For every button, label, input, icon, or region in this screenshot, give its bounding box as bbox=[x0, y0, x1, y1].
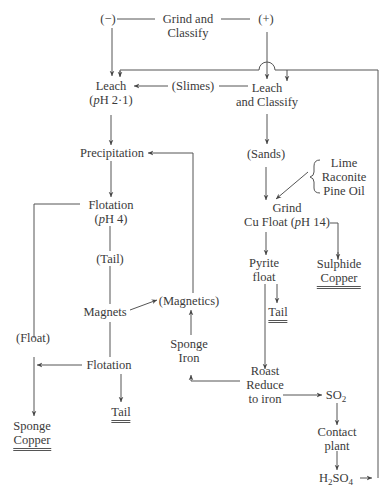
node-leach-and-classify: Leach and Classify bbox=[236, 81, 298, 109]
node-grind-and-classify: Grind and Classify bbox=[163, 12, 213, 40]
node-flotation-ph4: Flotation (pH 4) bbox=[88, 198, 133, 226]
node-undersize: (−) bbox=[100, 12, 115, 26]
label-tail-intermediate: (Tail) bbox=[96, 252, 124, 266]
node-oversize: (+) bbox=[258, 12, 273, 26]
product-tail-bottom: Tail bbox=[111, 405, 130, 423]
node-leach-ph21: Leach (pH 2·1) bbox=[89, 79, 132, 107]
product-sponge-copper: Sponge Copper bbox=[13, 419, 51, 451]
product-tail-pyrite: Tail bbox=[268, 305, 287, 323]
reagents-list: Lime Raconite Pine Oil bbox=[322, 156, 366, 198]
label-float: (Float) bbox=[16, 331, 50, 345]
node-grind-cu-float: Grind Cu Float (pH 14) bbox=[244, 201, 330, 229]
node-so2: SO2 bbox=[326, 388, 346, 406]
product-sulphide-copper: Sulphide Copper bbox=[317, 257, 361, 289]
label-sands: (Sands) bbox=[247, 147, 285, 161]
label-slimes: (Slimes) bbox=[172, 79, 214, 93]
node-contact-plant: Contact plant bbox=[318, 425, 357, 453]
node-flotation: Flotation bbox=[86, 358, 131, 372]
node-precipitation: Precipitation bbox=[80, 146, 144, 160]
node-magnetics: (Magnetics) bbox=[159, 294, 219, 308]
node-sponge-iron: Sponge Iron bbox=[170, 337, 208, 365]
node-roast-reduce: Roast Reduce to iron bbox=[246, 364, 283, 406]
flowsheet-diagram: (−) Grind and Classify (+) Leach (pH 2·1… bbox=[0, 0, 385, 494]
connector-lines bbox=[0, 0, 385, 494]
node-magnets: Magnets bbox=[83, 305, 126, 319]
node-h2so4: H2SO4 bbox=[319, 471, 353, 489]
node-pyrite-float: Pyrite float bbox=[249, 256, 279, 284]
